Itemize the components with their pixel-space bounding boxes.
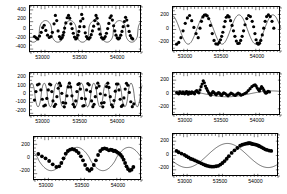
panel-6: -2000200530005350054000 xyxy=(0,0,287,194)
data-point xyxy=(269,149,273,153)
multi-panel-light-curve-figure: -400-2000200400530005350054000-200020053… xyxy=(0,0,287,194)
plot-area xyxy=(172,133,278,176)
y-axis-tick-labels: -2000200 xyxy=(146,133,169,176)
data-point xyxy=(227,154,231,158)
axis-ticks xyxy=(173,134,279,177)
y-tick-label: 0 xyxy=(166,152,169,157)
x-tick-label: 54000 xyxy=(248,179,262,184)
x-tick-label: 53000 xyxy=(178,179,192,184)
y-tick-label: 200 xyxy=(160,139,169,144)
data-point xyxy=(230,151,234,155)
plot-canvas xyxy=(173,134,279,177)
x-tick-label: 53500 xyxy=(213,179,227,184)
y-tick-label: -200 xyxy=(159,165,169,170)
